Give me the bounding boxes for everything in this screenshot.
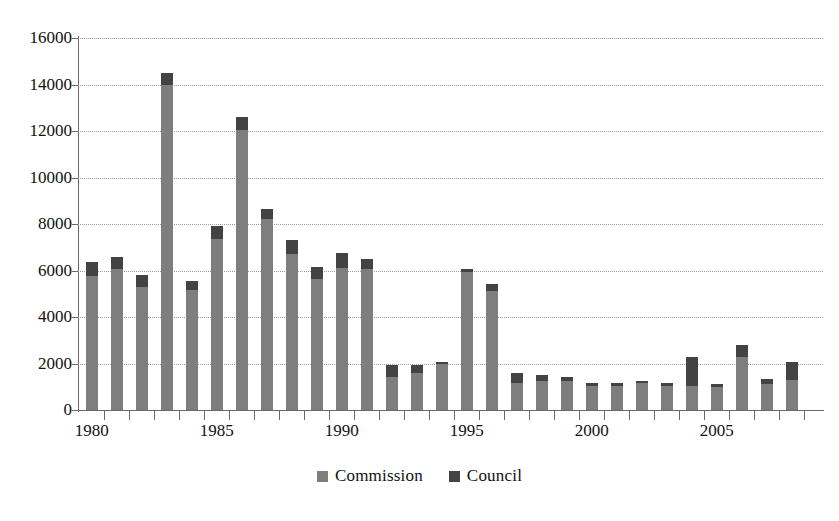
x-axis-tick-label: 1985 bbox=[200, 421, 234, 441]
x-axis-tick-mark bbox=[404, 411, 405, 420]
x-axis-tick-mark bbox=[479, 411, 480, 420]
x-axis-tick-mark bbox=[329, 411, 330, 420]
x-axis-tick-mark bbox=[454, 411, 455, 420]
x-axis-tick-mark bbox=[754, 411, 755, 420]
x-axis-tick-mark bbox=[129, 411, 130, 420]
x-axis-tick-mark bbox=[254, 411, 255, 420]
x-axis-tick-mark bbox=[179, 411, 180, 420]
x-axis-tick-mark bbox=[154, 411, 155, 420]
x-axis-tick-mark bbox=[729, 411, 730, 420]
x-axis-tick-label: 1995 bbox=[450, 421, 484, 441]
legend-item-council[interactable]: Council bbox=[449, 466, 522, 486]
x-axis-tick-mark bbox=[604, 411, 605, 420]
x-axis-tick-mark bbox=[704, 411, 705, 420]
x-axis-tick-mark bbox=[429, 411, 430, 420]
x-axis-tick-mark bbox=[629, 411, 630, 420]
x-axis-tick-mark bbox=[379, 411, 380, 420]
legend-item-commission[interactable]: Commission bbox=[317, 466, 423, 486]
legend-label: Commission bbox=[335, 466, 423, 486]
x-axis-tick-label: 2000 bbox=[575, 421, 609, 441]
x-axis-tick-label: 2005 bbox=[700, 421, 734, 441]
x-axis-tick-mark bbox=[104, 411, 105, 420]
x-axis-tick-mark bbox=[579, 411, 580, 420]
chart-container: 0200040006000800010000120001400016000 19… bbox=[0, 0, 839, 521]
x-axis-tick-mark bbox=[554, 411, 555, 420]
x-axis-tick-mark bbox=[529, 411, 530, 420]
x-axis-tick-mark bbox=[654, 411, 655, 420]
chart-legend: CommissionCouncil bbox=[0, 466, 839, 486]
x-axis: 198019851990199520002005 bbox=[0, 0, 839, 521]
legend-swatch-icon bbox=[317, 471, 328, 482]
x-axis-tick-mark bbox=[304, 411, 305, 420]
x-axis-tick-mark bbox=[504, 411, 505, 420]
x-axis-tick-label: 1990 bbox=[325, 421, 359, 441]
x-axis-tick-mark bbox=[204, 411, 205, 420]
x-axis-tick-label: 1980 bbox=[75, 421, 109, 441]
x-axis-tick-mark bbox=[804, 411, 805, 420]
legend-label: Council bbox=[467, 466, 522, 486]
x-axis-tick-mark bbox=[229, 411, 230, 420]
x-axis-tick-mark bbox=[779, 411, 780, 420]
x-axis-tick-mark bbox=[354, 411, 355, 420]
x-axis-tick-mark bbox=[679, 411, 680, 420]
x-axis-tick-mark bbox=[279, 411, 280, 420]
legend-swatch-icon bbox=[449, 471, 460, 482]
